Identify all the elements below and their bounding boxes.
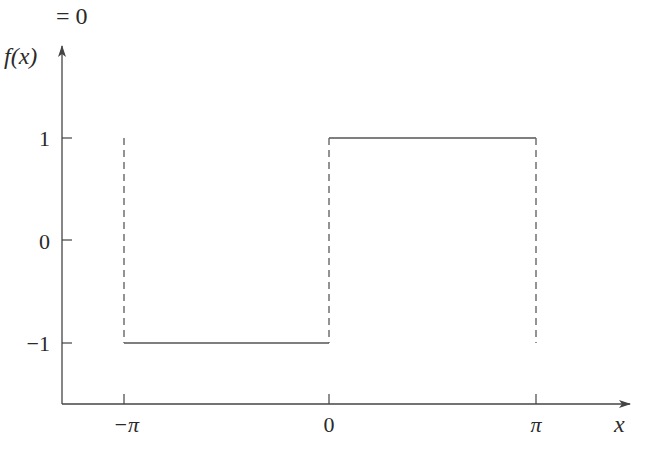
x-tick-label-pi: π: [530, 412, 542, 437]
y-tick-label-neg1: −1: [27, 331, 50, 356]
x-tick-label-neg-pi: −π: [113, 412, 140, 437]
x-tick-label-0: 0: [324, 412, 335, 437]
y-tick-label-0: 0: [39, 229, 50, 254]
y-axis-label: f(x): [4, 43, 37, 69]
x-axis-label: x: [613, 411, 625, 437]
y-tick-label-1: 1: [39, 126, 50, 151]
header-annotation: = 0: [56, 3, 88, 29]
chart-canvas: = 0 f(x) x 1 0 −1 −π 0 π: [0, 0, 646, 454]
